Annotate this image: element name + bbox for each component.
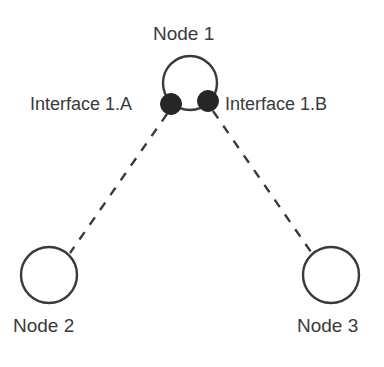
- interface-1a-dot[interactable]: [161, 94, 182, 115]
- network-diagram: Node 1 Node 2 Node 3 Interface 1.A Inter…: [0, 0, 384, 367]
- diagram-canvas: [0, 0, 384, 367]
- link-interface-1b-to-node-3: [213, 111, 311, 252]
- node-2-label: Node 2: [13, 316, 74, 335]
- interface-1b-dot[interactable]: [198, 91, 219, 112]
- interface-1b-label: Interface 1.B: [225, 95, 327, 113]
- node-2-circle[interactable]: [21, 247, 77, 303]
- node-3-label: Node 3: [297, 316, 358, 335]
- node-3-circle[interactable]: [303, 247, 359, 303]
- interface-1a-label: Interface 1.A: [30, 95, 132, 113]
- node-1-label: Node 1: [153, 24, 214, 43]
- link-interface-1a-to-node-2: [70, 114, 167, 253]
